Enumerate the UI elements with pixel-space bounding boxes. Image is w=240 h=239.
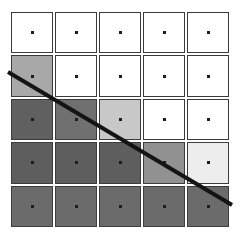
cell-center-dot (75, 118, 78, 121)
heatmap-cell (187, 12, 229, 53)
heatmap-cell (11, 142, 53, 183)
cell-center-dot (31, 118, 34, 121)
heatmap-cell (143, 99, 185, 140)
cell-center-dot (31, 161, 34, 164)
cell-center-dot (163, 205, 166, 208)
cell-center-dot (163, 75, 166, 78)
heatmap-cell (11, 12, 53, 53)
heatmap-cell (55, 12, 97, 53)
cell-center-dot (75, 161, 78, 164)
heatmap-cell (99, 55, 141, 96)
heatmap-cell (99, 142, 141, 183)
heatmap-grid (11, 12, 229, 227)
heatmap-cell (99, 186, 141, 227)
cell-center-dot (207, 31, 210, 34)
heatmap-cell (11, 99, 53, 140)
cell-center-dot (119, 75, 122, 78)
cell-center-dot (119, 118, 122, 121)
heatmap-cell (143, 12, 185, 53)
heatmap-cell (99, 12, 141, 53)
heatmap-cell (143, 142, 185, 183)
cell-center-dot (31, 205, 34, 208)
cell-center-dot (31, 31, 34, 34)
heatmap-cell (55, 99, 97, 140)
heatmap-cell (187, 55, 229, 96)
cell-center-dot (119, 161, 122, 164)
cell-center-dot (207, 118, 210, 121)
heatmap-cell (11, 186, 53, 227)
heatmap-cell (187, 186, 229, 227)
cell-center-dot (75, 75, 78, 78)
heatmap-cell (55, 142, 97, 183)
cell-center-dot (75, 31, 78, 34)
cell-center-dot (31, 75, 34, 78)
heatmap-figure (0, 0, 240, 239)
heatmap-cell (11, 55, 53, 96)
cell-center-dot (207, 161, 210, 164)
cell-center-dot (119, 205, 122, 208)
heatmap-cell (187, 99, 229, 140)
cell-center-dot (207, 75, 210, 78)
heatmap-cell (143, 55, 185, 96)
heatmap-cell (55, 55, 97, 96)
cell-center-dot (75, 205, 78, 208)
heatmap-cell (143, 186, 185, 227)
cell-center-dot (163, 118, 166, 121)
cell-center-dot (163, 161, 166, 164)
cell-center-dot (207, 205, 210, 208)
cell-center-dot (163, 31, 166, 34)
cell-center-dot (119, 31, 122, 34)
heatmap-cell (55, 186, 97, 227)
heatmap-cell (99, 99, 141, 140)
heatmap-cell (187, 142, 229, 183)
